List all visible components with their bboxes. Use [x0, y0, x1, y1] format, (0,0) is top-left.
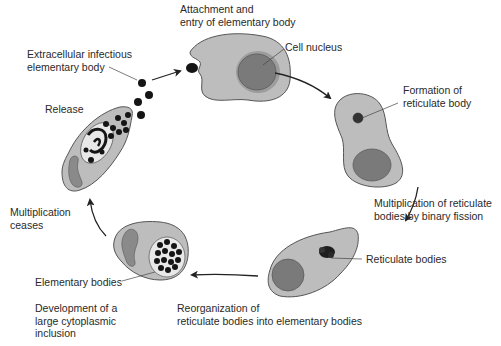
cell-inclusion — [114, 222, 189, 280]
arrow-to-release — [90, 200, 106, 236]
arrow-entry — [152, 71, 180, 80]
cell-attachment — [186, 34, 290, 101]
label-development: Development of a large cytoplasmic inclu… — [35, 302, 117, 340]
label-attachment: Attachment and entry of elementary body — [180, 3, 296, 28]
extracellular-elementary-bodies — [134, 79, 153, 119]
label-cell-nucleus: Cell nucleus — [285, 41, 342, 54]
elementary-body-attaching — [186, 63, 198, 73]
label-extracellular: Extracellular infectious elementary body — [27, 48, 132, 73]
label-reticulate-bodies: Reticulate bodies — [366, 253, 447, 266]
cell-release — [62, 107, 132, 191]
label-release: Release — [45, 103, 84, 116]
label-formation: Formation of reticulate body — [403, 84, 471, 109]
cell-formation-reticulate-body — [335, 94, 403, 187]
arrow-to-inclusion — [192, 274, 258, 276]
label-multiplication-fission: Multiplication of reticulate bodies by b… — [374, 197, 492, 222]
label-elementary-bodies: Elementary bodies — [35, 276, 122, 289]
label-reorganization: Reorganization of reticulate bodies into… — [177, 302, 362, 327]
label-multiplication-ceases: Multiplication ceases — [10, 206, 71, 231]
chlamydia-life-cycle-diagram: Attachment and entry of elementary body … — [0, 0, 501, 346]
cell-binary-fission — [268, 228, 358, 297]
